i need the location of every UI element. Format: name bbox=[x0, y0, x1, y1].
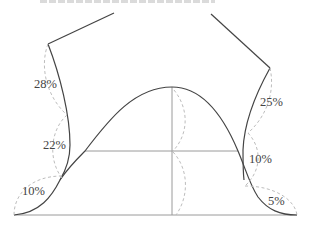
center-arc-lower bbox=[173, 152, 185, 215]
center-arc-upper bbox=[173, 90, 185, 151]
distribution-diagram: 28% 22% 10% 25% 10% 5% bbox=[0, 0, 310, 232]
left-wing-top-edge bbox=[48, 13, 114, 44]
right-label-3: 5% bbox=[268, 194, 285, 208]
left-label-1: 28% bbox=[34, 77, 57, 91]
left-label-2: 22% bbox=[43, 138, 66, 152]
right-label-2: 10% bbox=[249, 152, 272, 166]
left-wing-curve bbox=[48, 44, 70, 180]
right-wing-top-edge bbox=[211, 14, 270, 68]
left-label-3: 10% bbox=[22, 184, 45, 198]
right-label-1: 25% bbox=[260, 95, 283, 109]
